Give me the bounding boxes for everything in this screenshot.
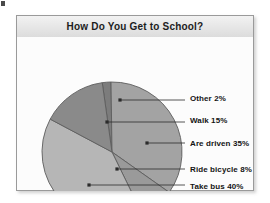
leader-dot xyxy=(118,98,121,101)
pie-slice-label-ride-bicycle: Ride bicycle 8% xyxy=(190,165,252,174)
page-corner-mark xyxy=(1,1,5,6)
pie-chart-plot-area: Other 2%Are driven 35%Ride bicycle 8%Tak… xyxy=(17,37,253,190)
leader-dot xyxy=(145,141,148,144)
leader-dot xyxy=(105,120,108,123)
chart-frame: How Do You Get to School? Other 2%Are dr… xyxy=(16,15,254,191)
leader-dot xyxy=(87,183,90,186)
leader-dot xyxy=(115,167,118,170)
pie-slice-label-other: Other 2% xyxy=(190,94,226,103)
page-title: How Do You Get to School? xyxy=(67,21,204,32)
pie-slice-group xyxy=(42,82,182,191)
pie-slice-label-take-bus: Take bus 40% xyxy=(190,182,244,191)
pie-slice-label-walk: Walk 15% xyxy=(190,116,227,125)
pie-slice-label-are-driven: Are driven 35% xyxy=(190,139,249,148)
chart-title-bar: How Do You Get to School? xyxy=(17,16,253,38)
